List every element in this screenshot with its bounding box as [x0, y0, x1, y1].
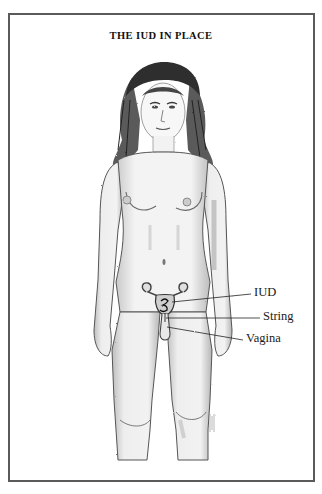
- figure-illustration: [0, 0, 322, 494]
- head: [141, 83, 185, 141]
- neck: [153, 136, 174, 152]
- label-vagina: Vagina: [246, 331, 281, 346]
- label-iud: IUD: [254, 285, 276, 300]
- label-string: String: [263, 309, 294, 324]
- torso: [116, 152, 210, 312]
- artist-signature: [210, 414, 214, 432]
